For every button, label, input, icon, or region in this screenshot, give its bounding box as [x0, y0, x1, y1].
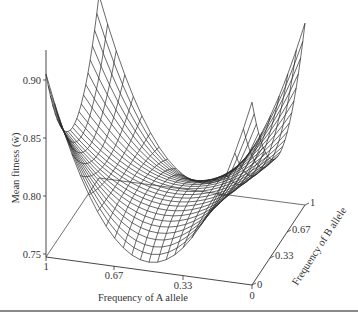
surface-mesh: [46, 0, 305, 262]
x-tick-label: 0: [249, 290, 254, 301]
surface-wireframe: [46, 0, 305, 262]
y-tick-label: 1: [310, 197, 315, 208]
y-axis-title: Frequency of B allele: [290, 205, 349, 287]
x-axis-title: Frequency of A allele: [98, 292, 188, 303]
x-tick-label: 0.33: [174, 280, 192, 291]
y-tick-label: 0: [257, 279, 262, 290]
x-tick-label: 1: [43, 261, 48, 272]
x-tick-label: 0.67: [105, 270, 123, 281]
z-axis-title: Mean fitness (w̄): [10, 132, 22, 204]
z-ticks: 0.90 0.85 0.80 0.75: [23, 75, 46, 260]
back-edge-line: [46, 178, 99, 257]
fitness-surface-chart: 0.90 0.85 0.80 0.75 1 0.67 0.33 0 0 0.33…: [0, 0, 358, 317]
z-tick-label: 0.80: [23, 191, 41, 202]
z-tick-label: 0.85: [23, 133, 41, 144]
y-tick-label: 0.67: [292, 224, 310, 235]
bottom-rule: [0, 310, 358, 312]
z-tick-label: 0.90: [23, 75, 41, 86]
z-tick-label: 0.75: [23, 249, 41, 260]
y-tick-label: 0.33: [275, 250, 293, 261]
